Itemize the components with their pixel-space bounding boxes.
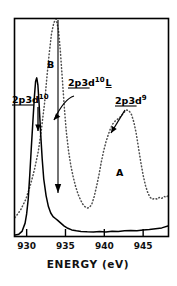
label-2p3d10L-ligand-hole: L [106, 77, 112, 88]
label-2p3d10L-superscript: 10 [95, 76, 105, 84]
label-2p3d10-superscript: 10 [39, 93, 49, 101]
label-2p3d9-superscript: 9 [142, 94, 147, 102]
label-A: A [116, 167, 124, 178]
label-2p3d10-base: 2p3d [12, 94, 39, 105]
label-B-text: B [47, 59, 54, 70]
label-2p3d9-base: 2p3d [115, 95, 142, 106]
x-tick-label: 935 [56, 241, 75, 251]
spectrum-figure: 930935940945 2p3d102p3d10L2p3d9BA ENERGY… [0, 0, 177, 286]
label-2p3d10L-text: 2p3d10L [68, 76, 112, 88]
x-tick-label: 930 [17, 241, 36, 251]
spectrum-plot: 930935940945 2p3d102p3d10L2p3d9BA ENERGY… [0, 0, 177, 286]
x-tick-label: 945 [134, 241, 153, 251]
label-2p3d10L: 2p3d10L [68, 76, 112, 88]
x-axis-label: ENERGY (eV) [47, 258, 129, 270]
label-2p3d10L-base: 2p3d [68, 77, 95, 88]
x-tick-label: 940 [95, 241, 114, 251]
label-A-text: A [116, 167, 124, 178]
label-B: B [47, 59, 54, 70]
